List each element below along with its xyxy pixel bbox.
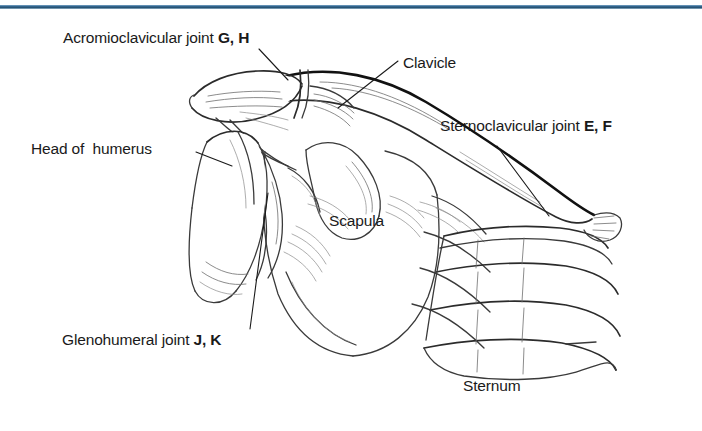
label-clavicle-text: Clavicle	[403, 54, 456, 71]
label-glenohumeral-code: J, K	[194, 331, 222, 348]
label-sternoclavicular-code: E, F	[584, 117, 612, 134]
label-head-of-humerus: Head of humerus	[31, 140, 152, 157]
label-sternum: Sternum	[463, 377, 521, 394]
sternum-and-ribs	[424, 226, 620, 379]
label-acromioclavicular-code: G, H	[218, 29, 249, 46]
label-acromioclavicular-text: Acromioclavicular joint	[63, 29, 218, 46]
label-acromioclavicular-joint: Acromioclavicular joint G, H	[63, 29, 249, 46]
label-sternoclavicular-text: Sternoclavicular joint	[440, 117, 584, 134]
label-sternum-text: Sternum	[463, 377, 521, 394]
humerus-head	[189, 131, 267, 302]
label-sternoclavicular-joint: Sternoclavicular joint E, F	[440, 117, 612, 134]
label-head-humerus-text: Head of humerus	[31, 140, 152, 157]
label-glenohumeral-joint: Glenohumeral joint J, K	[62, 331, 221, 348]
label-glenohumeral-text: Glenohumeral joint	[62, 331, 194, 348]
label-clavicle: Clavicle	[403, 54, 456, 71]
figure-root: .ln { fill:none; stroke:#3a3a3a; stroke-…	[0, 0, 702, 431]
label-scapula: Scapula	[329, 212, 384, 229]
label-scapula-text: Scapula	[329, 212, 384, 229]
